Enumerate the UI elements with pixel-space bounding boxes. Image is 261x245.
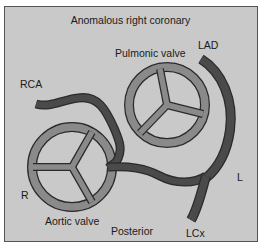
left-side-label: L bbox=[237, 172, 243, 183]
rca-label: RCA bbox=[20, 79, 42, 90]
lcx-label: LCx bbox=[186, 228, 205, 239]
coronary-diagram bbox=[0, 0, 261, 245]
aortic-valve-label: Aortic valve bbox=[45, 216, 99, 227]
right-side-label: R bbox=[21, 190, 29, 201]
lad-label: LAD bbox=[198, 40, 218, 51]
pulmonic-valve-label: Pulmonic valve bbox=[115, 48, 186, 59]
aortic-valve bbox=[32, 127, 112, 207]
posterior-label: Posterior bbox=[111, 226, 153, 237]
diagram-title: Anomalous right coronary bbox=[0, 15, 261, 26]
pulmonic-valve bbox=[129, 67, 205, 143]
